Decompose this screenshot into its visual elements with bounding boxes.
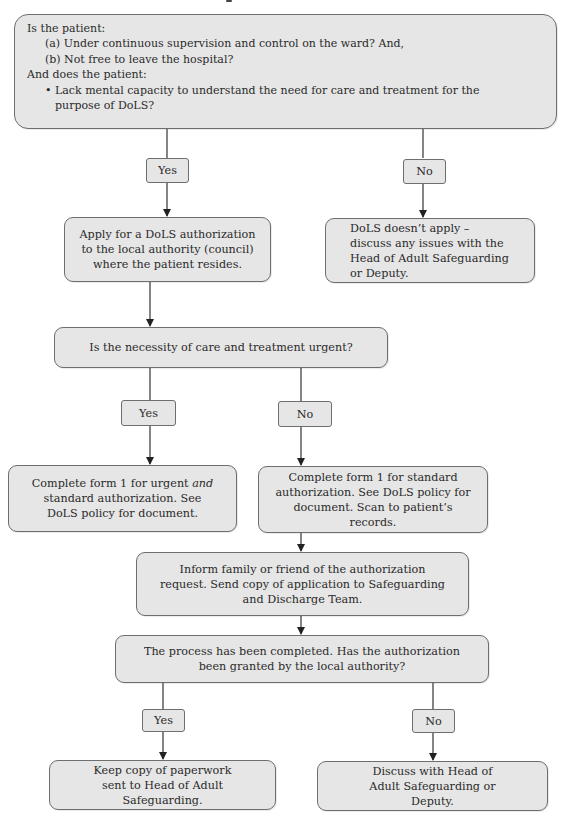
- granted-question-box: The process has been completed. Has the …: [115, 635, 489, 683]
- discuss-head-box: Discuss with Head of Adult Safeguarding …: [317, 761, 548, 811]
- start-line-is-patient: Is the patient:: [27, 21, 105, 36]
- form-standard-box: Complete form 1 for standard authorizati…: [258, 466, 488, 533]
- start-criterion-a: (a) Under continuous supervision and con…: [27, 36, 404, 51]
- form-urgent-box: Complete form 1 for urgent and standard …: [8, 465, 237, 532]
- form-urgent-emphasis: and: [192, 477, 213, 490]
- start-question-box: Is the patient: (a) Under continuous sup…: [14, 14, 557, 129]
- q2-yes-label: Yes: [121, 400, 176, 426]
- q1-yes-label: Yes: [146, 158, 189, 183]
- inform-family-box: Inform family or friend of the authoriza…: [136, 552, 469, 616]
- start-capacity-text: Lack mental capacity to understand the n…: [55, 83, 495, 114]
- apply-authorization-box: Apply for a DoLS authorization to the lo…: [64, 217, 271, 282]
- keep-copy-box: Keep copy of paperwork sent to Head of A…: [49, 760, 276, 810]
- cropped-title-fragment: [226, 0, 232, 2]
- start-line-does-patient: And does the patient:: [27, 67, 147, 82]
- q2-no-label: No: [278, 401, 332, 427]
- bullet-icon: •: [45, 83, 55, 114]
- start-criterion-capacity: • Lack mental capacity to understand the…: [27, 83, 495, 114]
- q1-no-label: No: [403, 159, 446, 184]
- form-urgent-text: Complete form 1 for urgent and standard …: [31, 476, 214, 521]
- start-criterion-b: (b) Not free to leave the hospital?: [27, 52, 233, 67]
- dols-not-apply-box: DoLS doesn’t apply – discuss any issues …: [325, 218, 535, 283]
- q3-yes-label: Yes: [142, 709, 185, 732]
- q3-no-label: No: [412, 709, 455, 733]
- urgent-question-box: Is the necessity of care and treatment u…: [54, 327, 388, 368]
